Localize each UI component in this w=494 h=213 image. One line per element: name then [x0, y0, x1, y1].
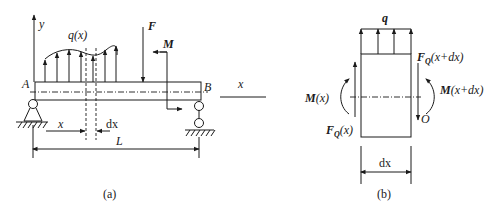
- pin-support: [16, 100, 48, 129]
- end-a-label: A: [21, 77, 30, 91]
- figure-b: q FQ(x+dx) FQ(x) M(x) M(x+dx) O dx (b): [304, 11, 483, 201]
- width-label: dx: [379, 156, 391, 170]
- element-load-arrows: [361, 29, 411, 54]
- beam-diagram: y q(x) A B x F M: [0, 0, 494, 213]
- moment-left-label: M(x): [304, 91, 329, 105]
- moment-right-label: M(x+dx): [439, 83, 483, 97]
- caption-b: (b): [377, 187, 391, 201]
- beam: [35, 82, 201, 100]
- roller-support: [185, 102, 215, 137]
- moment-label: M: [162, 37, 174, 51]
- load-label: q(x): [68, 28, 87, 42]
- shear-left-label: FQ(x): [325, 123, 353, 139]
- caption-a: (a): [103, 187, 116, 201]
- end-b-label: B: [204, 80, 212, 94]
- x-axis-label: x: [237, 77, 244, 91]
- position-label: x: [57, 117, 64, 131]
- shear-right-label: FQ(x+dx): [416, 50, 464, 66]
- element-load-label: q: [382, 11, 388, 25]
- moment-right-arrow: [426, 79, 434, 114]
- figure-a: y q(x) A B x F M: [16, 15, 266, 201]
- y-axis-label: y: [38, 17, 45, 31]
- dx-label: dx: [106, 117, 118, 131]
- length-label: L: [115, 134, 123, 148]
- beam-element: [361, 54, 411, 137]
- point-o-label: O: [421, 112, 430, 126]
- force-label: F: [147, 19, 156, 33]
- moment-left-arrow: [341, 79, 349, 114]
